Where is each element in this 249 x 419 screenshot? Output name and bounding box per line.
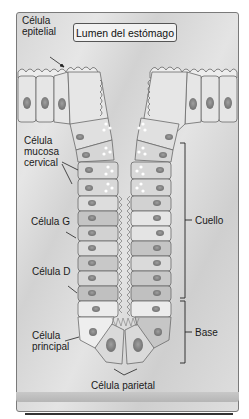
neck-region-label: Cuello [195,215,223,226]
gastric-gland-illustration [0,0,249,419]
epithelial-cell-label: Célula epitelial [22,15,56,37]
base-cells [78,317,171,364]
base-region-label: Base [195,327,218,338]
parietal-cell-label: Célula parietal [91,380,155,391]
divider-line [25,413,233,415]
mucous-neck-cell-label: Célula mucosa cervical [24,135,59,168]
chief-cell-label: Célula principal [32,330,69,352]
stomach-lumen-label: Lumen del estómago [73,23,177,42]
d-cell-label: Célula D [32,266,70,277]
g-cell-label: Célula G [31,216,70,227]
region-brackets [180,143,192,363]
